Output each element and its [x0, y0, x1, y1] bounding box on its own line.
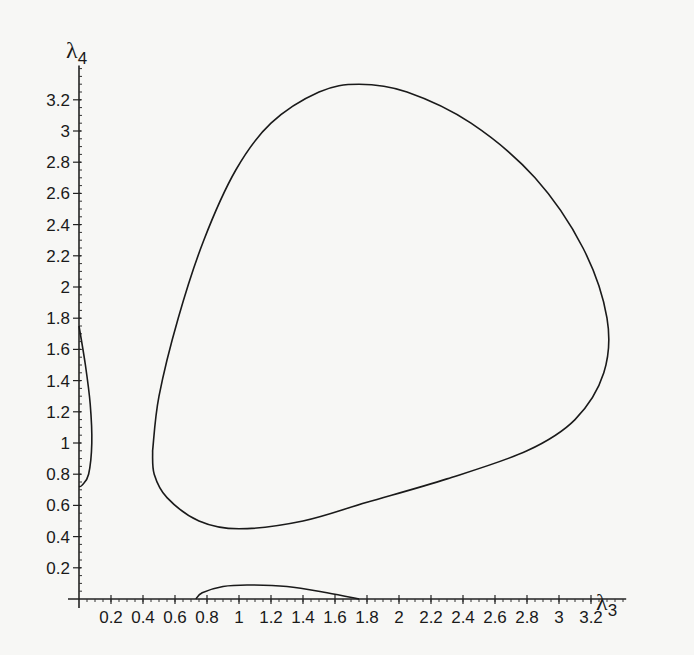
y-tick-label: 3.2 — [46, 91, 70, 110]
x-tick-label: 2.4 — [451, 608, 475, 627]
x-tick-label: 1.2 — [259, 608, 283, 627]
x-tick-label: 3 — [554, 608, 563, 627]
chart: 0.20.40.60.811.21.41.61.822.22.42.62.833… — [0, 0, 694, 655]
x-tick-label: 2.6 — [483, 608, 507, 627]
y-tick-label: 0.4 — [46, 528, 70, 547]
y-tick-label: 1.4 — [46, 372, 70, 391]
x-tick-label: 2 — [394, 608, 403, 627]
x-tick-label: 1 — [234, 608, 243, 627]
x-tick-label: 1.8 — [355, 608, 379, 627]
x-tick-label: 2.8 — [515, 608, 539, 627]
y-tick-label: 2 — [61, 278, 70, 297]
y-tick-label: 1.6 — [46, 340, 70, 359]
x-tick-label: 1.6 — [323, 608, 347, 627]
axes: 0.20.40.60.811.21.41.61.822.22.42.62.833… — [46, 65, 626, 627]
x-tick-label: 2.2 — [419, 608, 443, 627]
y-tick-label: 1 — [61, 434, 70, 453]
y-tick-label: 0.2 — [46, 559, 70, 578]
y-tick-label: 2.6 — [46, 184, 70, 203]
x-tick-label: 0.4 — [131, 608, 155, 627]
curve-closed-loop — [153, 84, 609, 529]
y-tick-label: 1.8 — [46, 309, 70, 328]
y-axis-title: λ4 — [66, 37, 87, 68]
y-tick-label: 2.4 — [46, 216, 70, 235]
y-tick-label: 0.8 — [46, 465, 70, 484]
curves — [79, 84, 609, 599]
y-tick-label: 1.2 — [46, 403, 70, 422]
curve-left-branch — [79, 326, 92, 487]
y-tick-label: 3 — [61, 122, 70, 141]
x-tick-label: 1.4 — [291, 608, 315, 627]
x-tick-label: 0.6 — [163, 608, 187, 627]
y-tick-label: 2.2 — [46, 247, 70, 266]
x-tick-label: 0.2 — [99, 608, 123, 627]
y-tick-label: 0.6 — [46, 496, 70, 515]
x-tick-label: 0.8 — [195, 608, 219, 627]
y-tick-label: 2.8 — [46, 153, 70, 172]
